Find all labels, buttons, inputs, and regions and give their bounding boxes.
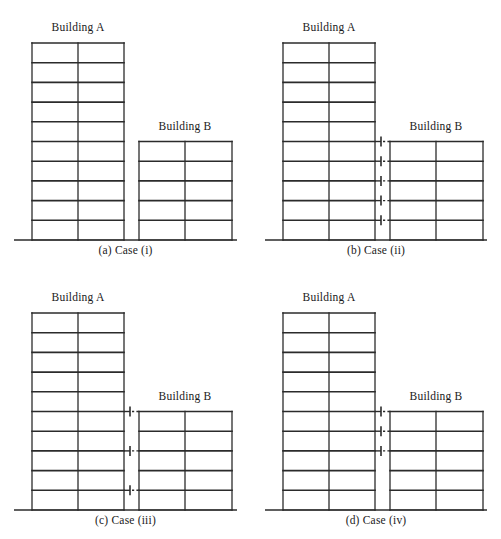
building-b-frame [139, 412, 232, 511]
building-a-frame [32, 313, 124, 510]
building-b-frame [139, 142, 232, 241]
panel-case-ii: Building A Building B (b) Case (ii) [251, 0, 501, 270]
damper-link [375, 426, 390, 436]
building-a-frame [32, 43, 124, 240]
damper-link [375, 407, 390, 417]
building-b-frame [390, 142, 483, 241]
damper-link [375, 137, 390, 147]
panel-case-i: Building A Building B (a) Case (i) [0, 0, 251, 270]
damper-link [375, 215, 390, 225]
building-b-frame [390, 412, 483, 511]
panel-case-iv: Building A Building B (d) Case (iv) [251, 270, 501, 539]
damper-link [124, 446, 139, 456]
damper-link [375, 156, 390, 166]
panel-case-iii: Building A Building B (c) Case (iii) [0, 270, 251, 539]
damper-link [124, 485, 139, 495]
damper-links [124, 407, 139, 496]
damper-link [375, 196, 390, 206]
damper-link [375, 446, 390, 456]
figure-four-cases: Building A Building B (a) Case (i) Build… [0, 0, 501, 539]
damper-link [124, 407, 139, 417]
building-a-frame [283, 43, 375, 240]
damper-link [375, 176, 390, 186]
damper-links [375, 407, 390, 456]
damper-links [375, 137, 390, 226]
building-a-frame [283, 313, 375, 510]
